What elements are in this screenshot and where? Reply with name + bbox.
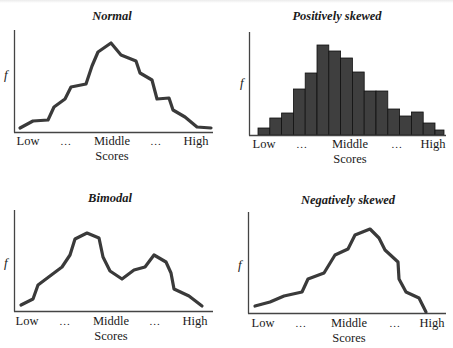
x-tick-middle: Middle xyxy=(94,134,130,149)
x-tick-high: High xyxy=(183,314,208,329)
x-axis-label: Scores xyxy=(94,329,127,344)
panel-bimodal: Bimodal f Low ... Middle ... High Scores xyxy=(0,185,226,348)
x-tick-low: Low xyxy=(253,137,276,152)
x-tick-ellipsis: ... xyxy=(149,315,160,327)
x-tick-ellipsis: ... xyxy=(295,317,306,329)
frequency-curve xyxy=(255,229,426,312)
x-tick-ellipsis: ... xyxy=(150,135,161,147)
x-tick-middle: Middle xyxy=(332,137,368,152)
x-tick-ellipsis: ... xyxy=(60,135,71,147)
x-axis-label: Scores xyxy=(333,152,366,167)
frequency-curve xyxy=(20,43,211,128)
x-tick-ellipsis: ... xyxy=(391,138,402,150)
x-tick-low: Low xyxy=(252,316,275,331)
x-tick-high: High xyxy=(421,137,446,152)
x-tick-low: Low xyxy=(16,314,39,329)
histogram-bars xyxy=(258,45,444,135)
x-tick-ellipsis: ... xyxy=(389,317,400,329)
x-tick-middle: Middle xyxy=(93,314,129,329)
panel-positively-skewed: Positively skewed f Low ... Middle ... H… xyxy=(226,0,453,175)
panel-negatively-skewed: Negatively skewed f Low ... Middle ... H… xyxy=(226,185,453,348)
x-tick-high: High xyxy=(420,316,445,331)
frequency-curve xyxy=(21,233,202,306)
x-tick-low: Low xyxy=(17,134,40,149)
x-tick-ellipsis: ... xyxy=(296,138,307,150)
x-tick-middle: Middle xyxy=(331,316,367,331)
panel-normal: Normal f Low ... Middle ... High Scores xyxy=(0,0,226,175)
x-axis-label: Scores xyxy=(95,149,128,164)
x-axis-label: Scores xyxy=(332,331,365,346)
x-tick-high: High xyxy=(184,134,209,149)
x-tick-ellipsis: ... xyxy=(59,315,70,327)
